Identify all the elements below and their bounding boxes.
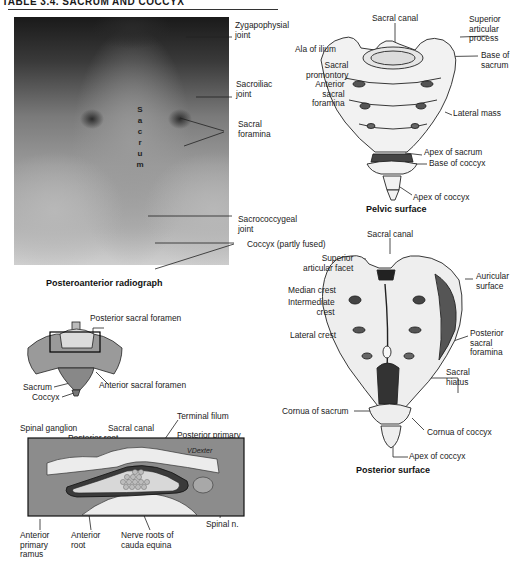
- label-pelvic-apex-of-coccyx: Apex of coccyx: [413, 193, 469, 203]
- label-anterior-root: Anterior root: [71, 531, 100, 550]
- label-cornua-of-coccyx: Cornua of coccyx: [427, 428, 492, 438]
- label-section-coccyx: Coccyx: [32, 393, 59, 403]
- label-nerve-roots-cauda-equina: Nerve roots of cauda equina: [121, 531, 174, 550]
- label-posterior-apex-of-coccyx: Apex of coccyx: [409, 452, 465, 462]
- caption-pelvic-surface: Pelvic surface: [366, 204, 427, 214]
- caption-radiograph: Posteroanterior radiograph: [46, 278, 163, 288]
- label-terminal-filum: Terminal filum: [177, 412, 229, 422]
- caption-posterior-surface: Posterior surface: [356, 465, 430, 475]
- pelvic-sacrum-illustration: [315, 30, 465, 205]
- label-anterior-sacral-foramen: Anterior sacral foramen: [99, 381, 186, 391]
- label-coccyx-partly-fused: Coccyx (partly fused): [247, 240, 326, 250]
- label-superior-articular-facet: Superior articular facet: [303, 254, 353, 273]
- label-apex-of-sacrum: Apex of sacrum: [424, 148, 482, 158]
- label-ala-of-ilium: Ala of ilium: [295, 45, 336, 55]
- label-cornua-of-sacrum: Cornua of sacrum: [282, 407, 349, 417]
- label-zygapophysial-joint: Zygapophysial joint: [235, 21, 289, 40]
- label-anterior-sacral-foramina: Anterior sacral foramina: [312, 80, 345, 109]
- label-sacral-foramina: Sacral foramina: [238, 120, 271, 139]
- label-posterior-sacral-canal: Sacral canal: [367, 230, 413, 240]
- label-sacral-promontory: Sacral promontory: [306, 61, 348, 80]
- posterior-sacrum-illustration: [315, 250, 475, 450]
- label-sacral-hiatus: Sacral hiatus: [446, 368, 470, 387]
- sacral-canal-section-illustration: VDexter: [27, 437, 245, 517]
- artist-signature: VDexter: [187, 447, 213, 454]
- label-sacrococcygeal-joint: Sacrococcygeal joint: [238, 215, 297, 234]
- label-lateral-mass: Lateral mass: [453, 109, 501, 119]
- label-base-of-sacrum: Base of sacrum: [481, 51, 509, 70]
- label-anterior-primary-ramus: Anterior primary ramus: [20, 531, 49, 560]
- label-intermediate-crest: Intermediate crest: [288, 298, 335, 317]
- label-lateral-crest: Lateral crest: [290, 331, 336, 341]
- label-posterior-sacral-foramen: Posterior sacral foramen: [90, 314, 181, 324]
- label-auricular-surface: Auricular surface: [476, 272, 509, 291]
- label-pelvic-sacral-canal: Sacral canal: [372, 14, 418, 24]
- label-median-crest: Median crest: [288, 286, 336, 296]
- label-posterior-sacral-foramina: Posterior sacral foramina: [470, 329, 504, 358]
- label-base-of-coccyx: Base of coccyx: [429, 159, 485, 169]
- label-superior-articular-process: Superior articular process: [469, 15, 501, 44]
- label-sacroiliac-joint: Sacroiliac joint: [236, 80, 272, 99]
- label-spinal-nerve: Spinal n.: [206, 520, 239, 530]
